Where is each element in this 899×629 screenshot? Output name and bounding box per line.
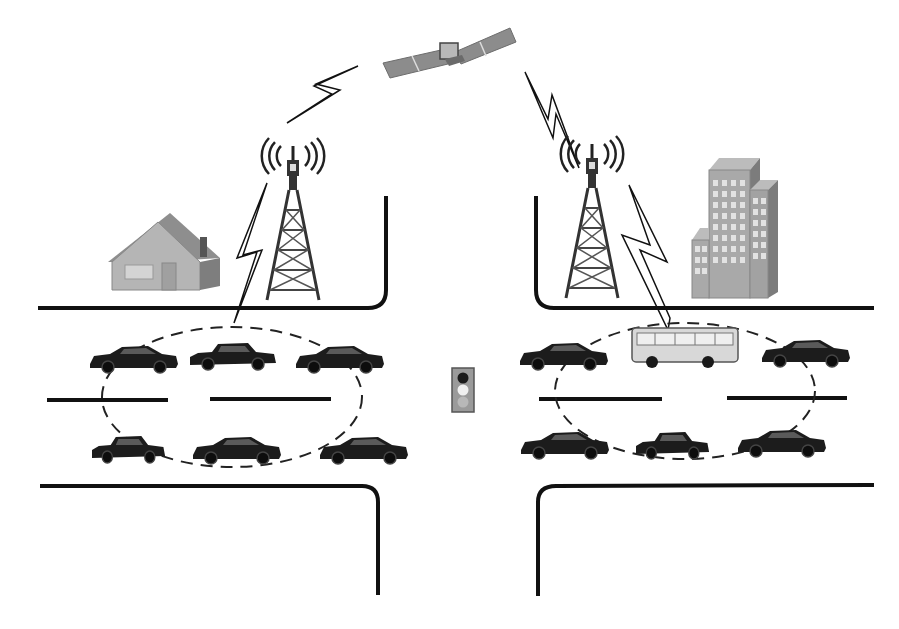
car-icon — [636, 432, 709, 459]
left-vehicle-cluster — [90, 343, 408, 464]
building-window — [753, 198, 758, 204]
building-window — [731, 246, 736, 252]
vehicular-network-diagram — [0, 0, 899, 629]
car-icon — [296, 346, 384, 373]
building-window — [761, 220, 766, 226]
building-window — [761, 242, 766, 248]
car-icon — [193, 437, 281, 464]
building-window — [740, 213, 745, 219]
car-icon — [90, 346, 178, 373]
building-window — [731, 202, 736, 208]
car-icon — [320, 437, 408, 464]
building-window — [761, 198, 766, 204]
car-icon — [190, 343, 276, 370]
car-icon — [762, 340, 850, 367]
satellite-icon — [383, 28, 516, 78]
building-window — [695, 246, 700, 252]
building-window — [753, 220, 758, 226]
building-window — [702, 257, 707, 263]
building-window — [761, 231, 766, 237]
left-tower-icon — [262, 138, 324, 300]
building-window — [753, 209, 758, 215]
building-window — [731, 213, 736, 219]
building-window — [731, 180, 736, 186]
link-left-tower-cluster-icon — [234, 183, 267, 323]
building-window — [713, 224, 718, 230]
house-icon — [108, 213, 220, 290]
building-window — [702, 246, 707, 252]
building-window — [702, 268, 707, 274]
road-edge-bottom-left — [40, 486, 378, 595]
building-window — [713, 213, 718, 219]
building-window — [722, 213, 727, 219]
building-window — [740, 235, 745, 241]
building-window — [731, 191, 736, 197]
building-window — [731, 224, 736, 230]
building-window — [713, 180, 718, 186]
building-window — [753, 242, 758, 248]
building-window — [731, 235, 736, 241]
building-window — [740, 202, 745, 208]
building-window — [695, 268, 700, 274]
building-window — [722, 257, 727, 263]
building-window — [731, 257, 736, 263]
building-window — [753, 231, 758, 237]
right-tower-icon — [561, 136, 623, 298]
building-window — [740, 191, 745, 197]
building-window — [713, 202, 718, 208]
building-window — [713, 235, 718, 241]
building-window — [740, 180, 745, 186]
traffic-light-icon — [452, 368, 474, 412]
link-satellite-left-tower-icon — [287, 66, 358, 123]
car-icon — [521, 432, 609, 459]
car-icon — [92, 436, 165, 463]
building-window — [722, 235, 727, 241]
building-window — [695, 257, 700, 263]
building-window — [713, 191, 718, 197]
building-window — [722, 246, 727, 252]
building-window — [722, 202, 727, 208]
building-window — [722, 180, 727, 186]
right-vehicle-cluster — [520, 328, 850, 459]
building-window — [722, 191, 727, 197]
building-window — [740, 224, 745, 230]
building-window — [713, 257, 718, 263]
building-window — [761, 253, 766, 259]
building-window — [740, 246, 745, 252]
building-window — [722, 224, 727, 230]
building-window — [713, 246, 718, 252]
office-building-icon — [692, 158, 778, 298]
building-window — [761, 209, 766, 215]
car-icon — [738, 430, 826, 457]
road-edge-bottom-right — [538, 485, 874, 596]
link-satellite-right-tower-icon — [525, 72, 579, 168]
building-window — [753, 253, 758, 259]
lane-markings — [47, 398, 847, 400]
bus-icon — [632, 328, 738, 368]
building-window — [740, 257, 745, 263]
